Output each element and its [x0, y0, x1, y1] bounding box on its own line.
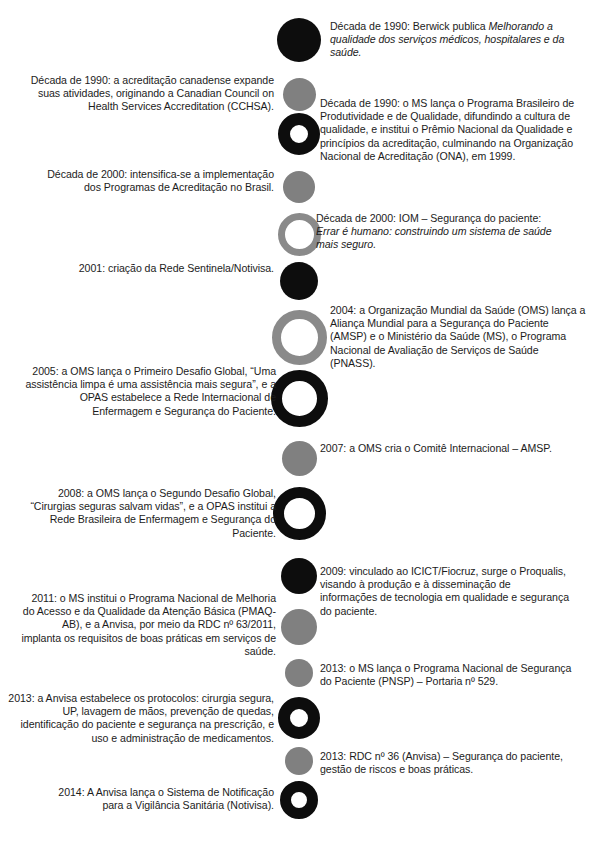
timeline-event-lead: Década de 2000: intensifica-se a impleme…	[47, 168, 274, 193]
timeline-marker-solid-black-icon	[281, 558, 317, 594]
timeline-marker-solid-black-icon	[277, 18, 321, 62]
timeline-marker-solid-black-icon	[280, 262, 318, 300]
timeline-marker-ring-black-icon	[278, 113, 320, 155]
timeline-event-text: 2009: vinculado ao ICICT/Fiocruz, surge …	[320, 565, 570, 618]
timeline-marker-ring-gray-icon	[272, 310, 327, 365]
timeline-event-title-italic: Errar é humano: construindo um sistema d…	[316, 225, 552, 250]
timeline-event-lead: Década de 1990: Berwick publica	[330, 20, 489, 32]
timeline-figure: Década de 1990: Berwick publica Melhoran…	[0, 0, 592, 850]
timeline-event-text: 2013: RDC nº 36 (Anvisa) – Segurança do …	[320, 750, 570, 776]
timeline-event-lead: Década de 1990: o MS lança o Programa Br…	[320, 97, 574, 162]
timeline-event-lead: Década de 2000: IOM – Segurança do pacie…	[316, 212, 541, 224]
timeline-event-lead: 2007: a OMS cria o Comitê Internacional …	[320, 442, 552, 454]
timeline-marker-solid-gray-icon	[283, 78, 316, 111]
timeline-event-text: Década de 2000: intensifica-se a impleme…	[40, 168, 274, 194]
timeline-event-lead: 2013: RDC nº 36 (Anvisa) – Segurança do …	[320, 750, 563, 775]
timeline-event-text: 2004: a Organização Mundial da Saúde (OM…	[330, 304, 586, 370]
timeline-event-text: 2011: o MS institui o Programa Nacional …	[20, 592, 276, 658]
timeline-event-text: 2014: A Anvisa lança o Sistema de Notifi…	[40, 786, 274, 812]
timeline-marker-ring-black-icon	[280, 781, 318, 819]
timeline-event-lead: 2014: A Anvisa lança o Sistema de Notifi…	[58, 786, 274, 811]
timeline-event-text: 2008: a OMS lança o Segundo Desafio Glob…	[20, 487, 276, 540]
timeline-marker-solid-gray-icon	[285, 747, 313, 775]
timeline-marker-ring-gray-icon	[278, 213, 321, 256]
timeline-event-lead: 2009: vinculado ao ICICT/Fiocruz, surge …	[320, 565, 569, 617]
timeline-event-lead: 2011: o MS institui o Programa Nacional …	[21, 592, 276, 657]
timeline-event-lead: 2004: a Organização Mundial da Saúde (OM…	[330, 304, 585, 369]
timeline-event-text: Década de 1990: o MS lança o Programa Br…	[320, 97, 582, 163]
timeline-event-lead: 2008: a OMS lança o Segundo Desafio Glob…	[30, 487, 276, 539]
timeline-event-text: 2013: a Anvisa estabelece os protocolos:…	[8, 692, 274, 745]
timeline-event-text: 2013: o MS lança o Programa Nacional de …	[320, 662, 576, 688]
page-footer-artifact	[0, 838, 592, 848]
timeline-event-text: 2001: criação da Rede Sentinela/Notivisa…	[40, 262, 274, 275]
timeline-marker-solid-gray-icon	[285, 659, 313, 687]
timeline-marker-ring-black-icon	[271, 370, 328, 427]
timeline-event-lead: Década de 1990: a acreditação canadense …	[31, 74, 274, 112]
timeline-event-lead: 2013: o MS lança o Programa Nacional de …	[320, 662, 571, 687]
timeline-marker-solid-gray-icon	[283, 171, 315, 203]
timeline-marker-solid-gray-icon	[282, 441, 317, 476]
timeline-marker-solid-gray-icon	[281, 609, 317, 645]
timeline-event-lead: 2013: a Anvisa estabelece os protocolos:…	[8, 692, 274, 744]
timeline-event-lead: 2001: criação da Rede Sentinela/Notivisa…	[79, 262, 274, 274]
timeline-event-text: Década de 1990: Berwick publica Melhoran…	[330, 20, 580, 60]
timeline-event-text: Década de 1990: a acreditação canadense …	[12, 74, 274, 114]
timeline-event-text: 2007: a OMS cria o Comitê Internacional …	[320, 442, 570, 455]
timeline-marker-ring-black-icon	[278, 697, 320, 739]
timeline-marker-ring-black-icon	[273, 487, 326, 540]
timeline-event-lead: 2005: a OMS lança o Primeiro Desafio Glo…	[25, 365, 276, 417]
timeline-event-text: Década de 2000: IOM – Segurança do pacie…	[316, 212, 566, 252]
timeline-event-text: 2005: a OMS lança o Primeiro Desafio Glo…	[20, 365, 276, 418]
